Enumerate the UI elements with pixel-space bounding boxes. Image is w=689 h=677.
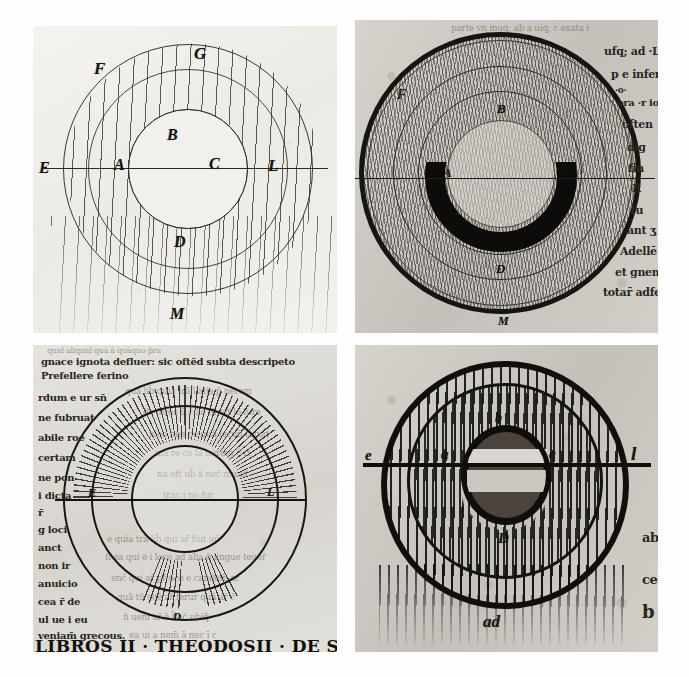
marginalia-line-4: ne fubruat bbox=[38, 413, 94, 423]
marginalia-line-6: certam bbox=[38, 453, 76, 463]
marginalia-line-12: Adellē bbox=[620, 246, 657, 257]
label-D: D bbox=[496, 262, 505, 275]
marginalia-line-9: r̄ bbox=[38, 508, 43, 518]
panel-top-right[interactable]: F B A C D M parte vn inuq; ab a uiq; c e… bbox=[355, 20, 658, 333]
marginalia-line-2: ufq; ad ·L· hu bbox=[604, 46, 658, 57]
marginalia-line-4: ·o· bbox=[615, 86, 626, 95]
panel-top-left[interactable]: F G B E A C L D M bbox=[33, 26, 337, 333]
label-E: E bbox=[88, 487, 96, 499]
label-ad: ad bbox=[483, 613, 500, 630]
marginalia-b: b bbox=[642, 603, 654, 621]
marginalia-line-10: fu bbox=[631, 205, 643, 216]
figure-sheet: F G B E A C L D M F B A C D M bbox=[0, 0, 689, 677]
marginalia-line-8: fin bbox=[628, 163, 644, 174]
panel-bottom-left[interactable]: quā lib̄ quia trā ī alia p̄ nerem de fe… bbox=[33, 345, 337, 652]
diameter-line bbox=[363, 463, 651, 467]
label-M: M bbox=[498, 315, 509, 327]
marginalia-line-5: ora ·r io bbox=[617, 98, 658, 108]
label-c: c bbox=[549, 447, 556, 462]
label-F: F bbox=[94, 60, 105, 77]
marginalia-line-11: ant ʒ bbox=[627, 225, 656, 236]
label-A: A bbox=[114, 157, 125, 173]
marginalia-line-15: ul ue i eu bbox=[38, 615, 88, 625]
label-D: D bbox=[174, 234, 186, 250]
marginalia-line-12: non ir bbox=[38, 561, 70, 571]
marginalia-line-10: g loci bbox=[38, 525, 67, 535]
panel-bottom-right[interactable]: e a b c l D ad ab ce b bbox=[355, 345, 658, 652]
marginalia-line-11: anct bbox=[38, 543, 61, 553]
label-C: C bbox=[560, 165, 569, 178]
marginalia-line-14: cea r̄ de bbox=[38, 597, 80, 607]
marginalia-line-3: rdum e ur sn̄ bbox=[38, 393, 107, 403]
label-G: G bbox=[194, 45, 206, 62]
marginalia-line-9: R bbox=[632, 183, 641, 194]
label-a: a bbox=[441, 447, 449, 462]
gothic-caption: LIBROS II · THEODOSII · DE SOM · bbox=[35, 638, 337, 652]
marginalia-line-14: totar̄ adfect̄ bbox=[603, 287, 658, 298]
marginalia-line-5: abile roe bbox=[38, 433, 85, 443]
diameter-line bbox=[355, 178, 655, 179]
marginalia-line-6: often bbox=[622, 119, 653, 130]
label-A: A bbox=[443, 166, 452, 179]
diameter-line bbox=[43, 168, 328, 169]
marginalia-line-13: et gnem bbox=[615, 267, 658, 278]
marginalia-line-1: parte vn inuq; ab a uiq; c exata i bbox=[451, 24, 589, 33]
marginalia-line-1: gnace ignota defluer: sic oftēd subta d… bbox=[41, 357, 295, 367]
label-B: B bbox=[497, 102, 506, 115]
label-l: l bbox=[631, 444, 636, 463]
marginalia-line-3: p e inferio bbox=[611, 69, 658, 80]
label-M: M bbox=[170, 306, 184, 322]
marginalia-line-8: i dicta bbox=[38, 491, 71, 501]
label-F: F bbox=[397, 88, 406, 102]
marginalia-head-faint: quid aliquid quā ā quāquo p̄ru bbox=[47, 347, 161, 355]
label-E: E bbox=[39, 160, 50, 176]
label-e: e bbox=[365, 448, 372, 463]
label-L: L bbox=[268, 157, 278, 174]
marginalia-ce: ce bbox=[642, 573, 658, 586]
marginalia-line-2: Prefellere ferino bbox=[41, 371, 128, 381]
label-b: b bbox=[495, 411, 502, 425]
marginalia-ab: ab bbox=[642, 531, 658, 544]
inner-circle-top bbox=[128, 109, 248, 229]
inner-disc-ring bbox=[461, 425, 551, 525]
marginalia-line-7: dig bbox=[627, 142, 646, 153]
label-L: L bbox=[267, 486, 274, 498]
label-D: D bbox=[173, 611, 181, 622]
label-C: C bbox=[209, 156, 220, 172]
label-B: B bbox=[167, 127, 178, 143]
inner-disc bbox=[447, 120, 555, 228]
vertical-ruling-overhang bbox=[51, 216, 337, 333]
label-D: D bbox=[498, 531, 509, 546]
marginalia-line-13: anuicio bbox=[38, 579, 77, 589]
marginalia-line-7: ne pon bbox=[38, 473, 74, 483]
